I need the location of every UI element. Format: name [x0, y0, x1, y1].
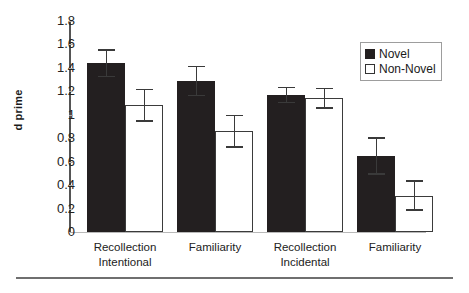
error-bar-cap-bottom — [368, 173, 385, 175]
error-bar-cap-bottom — [98, 76, 115, 78]
error-bar-cap-top — [226, 115, 243, 117]
chart-legend: Novel Non-Novel — [360, 42, 442, 81]
error-bar-cap-bottom — [278, 102, 295, 104]
x-axis-baseline — [69, 232, 426, 233]
y-axis-tick-label: 1 — [17, 108, 75, 122]
y-axis-tick-mark — [69, 21, 73, 22]
y-axis-tick-label: 1.4 — [17, 61, 75, 75]
error-bar-cap-top — [406, 180, 423, 182]
bar-non-novel[interactable] — [305, 21, 343, 232]
error-bar-cap-bottom — [226, 146, 243, 148]
bar-novel[interactable] — [267, 21, 305, 232]
legend-item-non-novel: Non-Novel — [365, 61, 436, 76]
error-bar-cap-top — [136, 89, 153, 91]
error-bar — [414, 180, 416, 210]
y-axis-tick-mark — [69, 91, 73, 92]
error-bar — [196, 66, 198, 96]
bar-rect — [177, 81, 215, 232]
category-label-line1: Familiarity — [369, 241, 421, 253]
bar-rect — [125, 105, 163, 232]
bar-rect — [267, 95, 305, 232]
y-axis-tick-label: 0.2 — [17, 202, 75, 216]
y-axis-tick-mark — [69, 162, 73, 163]
y-axis-tick-mark — [69, 44, 73, 45]
legend-item-label: Novel — [379, 47, 410, 61]
error-bar — [376, 137, 378, 175]
bar-group — [87, 21, 163, 232]
error-bar-cap-bottom — [136, 120, 153, 122]
bar-novel[interactable] — [177, 21, 215, 232]
y-axis-tick-mark — [69, 185, 73, 186]
y-axis-tick-mark — [69, 68, 73, 69]
error-bar-cap-bottom — [316, 107, 333, 109]
category-label-line2: Incidental — [245, 255, 365, 270]
y-axis-tick-label: 1.2 — [17, 84, 75, 98]
error-bar — [144, 89, 146, 122]
error-bar — [324, 88, 326, 109]
error-bar — [286, 87, 288, 103]
x-axis-category-label: Familiarity — [335, 240, 455, 255]
bar-chart-figure: d prime 00.20.40.60.811.21.41.61.8 Recol… — [0, 0, 469, 293]
y-axis-tick-label: 0.6 — [17, 155, 75, 169]
error-bar-cap-top — [188, 66, 205, 68]
outlined-white-square-icon — [365, 64, 375, 74]
error-bar-cap-bottom — [188, 95, 205, 97]
bar-non-novel[interactable] — [125, 21, 163, 232]
y-axis-tick-label: 1.6 — [17, 37, 75, 51]
y-axis-tick-label: 0.4 — [17, 178, 75, 192]
bar-rect — [87, 63, 125, 232]
footer-divider — [16, 277, 453, 279]
category-label-line1: Recollection — [94, 241, 157, 253]
legend-item-label: Non-Novel — [379, 62, 436, 76]
y-axis-tick-mark — [69, 138, 73, 139]
category-label-line2: Intentional — [65, 255, 185, 270]
y-axis-tick-mark — [69, 209, 73, 210]
error-bar — [234, 115, 236, 148]
filled-black-square-icon — [365, 49, 375, 59]
y-axis-tick-label: 1.8 — [17, 14, 75, 28]
error-bar-cap-top — [316, 88, 333, 90]
legend-item-novel: Novel — [365, 46, 436, 61]
error-bar-cap-bottom — [406, 209, 423, 211]
bar-non-novel[interactable] — [215, 21, 253, 232]
error-bar — [106, 49, 108, 77]
y-axis-tick-mark — [69, 115, 73, 116]
bar-novel[interactable] — [87, 21, 125, 232]
bar-group — [267, 21, 343, 232]
y-axis-tick-label: 0 — [17, 225, 75, 239]
category-label-line1: Recollection — [274, 241, 337, 253]
y-axis-tick-label: 0.8 — [17, 131, 75, 145]
bar-rect — [305, 98, 343, 232]
error-bar-cap-top — [278, 87, 295, 89]
y-axis-tick-mark — [69, 232, 73, 233]
error-bar-cap-top — [98, 49, 115, 51]
category-label-line1: Familiarity — [189, 241, 241, 253]
error-bar-cap-top — [368, 137, 385, 139]
bar-group — [177, 21, 253, 232]
